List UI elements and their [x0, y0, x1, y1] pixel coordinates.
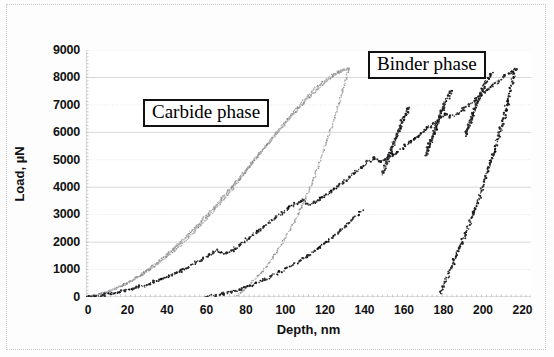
y-tick-label-1000: 1000: [36, 262, 80, 276]
plot-wrapper: Load, µN 9000 8000 7000 6000 5000 4000 3…: [0, 0, 554, 357]
y-axis-title-text: Load, µN: [12, 146, 27, 201]
y-tick-label-2000: 2000: [36, 235, 80, 249]
x-tick-label-200: 200: [473, 303, 493, 317]
x-tick-label-120: 120: [315, 303, 335, 317]
x-tick-label-0: 0: [85, 303, 92, 317]
axis-lines: [86, 50, 531, 297]
x-tick-label-180: 180: [433, 303, 453, 317]
x-tick-label-140: 140: [354, 303, 374, 317]
y-tick-label-6000: 6000: [36, 125, 80, 139]
y-tick-label-3000: 3000: [36, 207, 80, 221]
x-tick-label-220: 220: [512, 303, 532, 317]
y-tick-label-8000: 8000: [36, 70, 80, 84]
plot-area: [86, 50, 531, 297]
y-tick-label-4000: 4000: [36, 180, 80, 194]
x-tick-label-160: 160: [394, 303, 414, 317]
x-axis-title: Depth, nm: [86, 322, 531, 337]
chart-svg: [86, 50, 531, 297]
y-tick-label-5000: 5000: [36, 153, 80, 167]
x-tick-label-80: 80: [239, 303, 252, 317]
x-tick-label-60: 60: [200, 303, 213, 317]
chart-root: Load, µN 9000 8000 7000 6000 5000 4000 3…: [0, 0, 554, 357]
series-binder-popin-2: [381, 107, 410, 176]
x-tick-label-100: 100: [275, 303, 295, 317]
gridlines: [86, 50, 531, 270]
x-tick-label-20: 20: [121, 303, 134, 317]
y-tick-label-9000: 9000: [36, 43, 80, 57]
x-tick-label-40: 40: [160, 303, 173, 317]
y-axis-title: Load, µN: [10, 50, 28, 297]
y-tick-label-7000: 7000: [36, 98, 80, 112]
axis-tick-marks: [86, 50, 531, 297]
binder-phase-label: Binder phase: [368, 51, 486, 79]
carbide-phase-label: Carbide phase: [143, 99, 269, 127]
series-binder-popin-3: [424, 90, 453, 157]
y-tick-label-0: 0: [36, 290, 80, 304]
